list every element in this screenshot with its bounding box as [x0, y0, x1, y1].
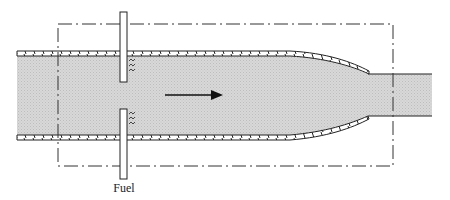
combustor-diagram: Fuel [0, 0, 450, 200]
fluid-region [17, 56, 432, 135]
fuel-label: Fuel [113, 181, 135, 195]
